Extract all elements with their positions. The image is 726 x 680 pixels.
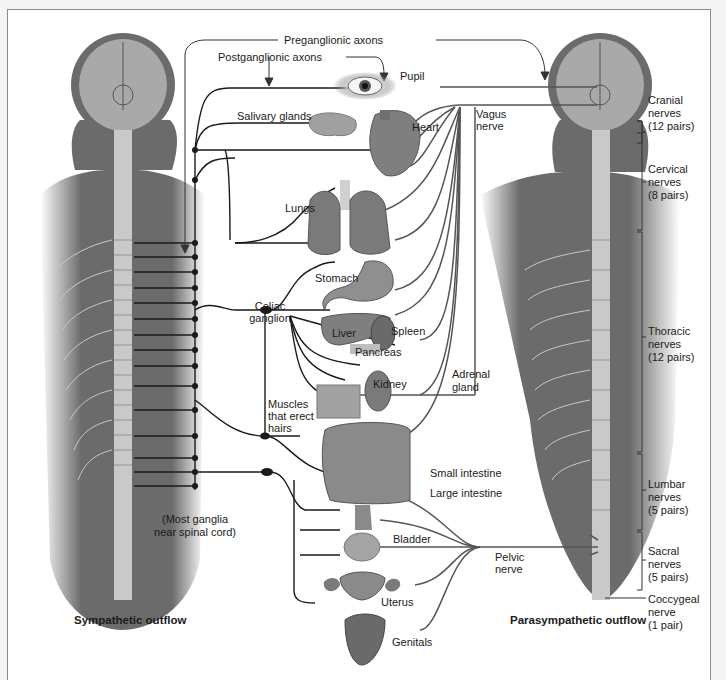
lung-right: [350, 191, 390, 254]
sympathetic-caption: Sympathetic outflow: [74, 614, 186, 627]
lung-left: [308, 191, 340, 254]
pupil-label: Pupil: [400, 70, 424, 83]
lungs-label: Lungs: [285, 202, 315, 215]
lumbar-label: Lumbarnerves(5 pairs): [648, 478, 688, 517]
vagus-label-2: nerve: [476, 120, 504, 133]
liver-label: Liver: [332, 327, 356, 340]
bladder-shape: [344, 533, 380, 561]
cranial-label: Cranialnerves(12 pairs): [648, 94, 694, 133]
pelvic-label-2: nerve: [495, 563, 523, 576]
thoracic-label: Thoracicnerves(12 pairs): [648, 325, 694, 364]
skin-hair-shape: [317, 385, 360, 418]
cervical-label: Cervicalnerves(8 pairs): [648, 163, 688, 202]
genitals-shape: [345, 614, 385, 665]
small-intestine-label: Small intestine: [430, 467, 502, 480]
genitals-label: Genitals: [392, 636, 432, 649]
kidney-label: Kidney: [373, 378, 407, 391]
stomach-shape: [323, 261, 393, 310]
celiac-label-2: ganglion: [244, 312, 296, 325]
coccygeal-label: Coccygealnerve(1 pair): [648, 593, 699, 632]
intestines-shape: [322, 423, 410, 504]
bladder-label: Bladder: [393, 533, 431, 546]
most-ganglia-label-1: (Most ganglia: [150, 513, 240, 526]
kidney-shape: [365, 371, 391, 411]
uterus-shape: [340, 572, 385, 600]
large-intestine-label: Large intestine: [430, 487, 502, 500]
postganglionic-label: Postganglionic axons: [218, 51, 322, 64]
preganglionic-label: Preganglionic axons: [284, 34, 383, 47]
adrenal-label: Adrenal gland: [452, 368, 512, 394]
salivary-label: Salivary glands: [237, 110, 312, 123]
pancreas-label: Pancreas: [355, 346, 401, 359]
heart-label: Heart: [412, 121, 439, 134]
salivary-gland-shape: [309, 113, 356, 136]
uterus-label: Uterus: [381, 596, 413, 609]
spleen-label: Spleen: [391, 325, 425, 338]
muscles-label-3: hairs: [268, 422, 292, 435]
stomach-label: Stomach: [315, 272, 358, 285]
parasympathetic-caption: Parasympathetic outflow: [510, 614, 646, 627]
most-ganglia-label-2: near spinal cord): [140, 526, 250, 539]
sympathetic-figure: [40, 33, 205, 630]
sacral-label: Sacralnerves(5 pairs): [648, 545, 688, 584]
organs: [308, 72, 420, 665]
